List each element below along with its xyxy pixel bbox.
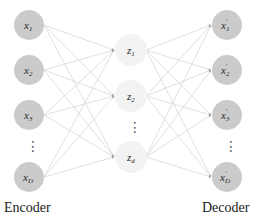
encoder-edges — [44, 25, 114, 177]
latent-ellipsis: ⋮ — [128, 119, 142, 135]
decoder-edges — [146, 25, 211, 177]
latent-node: zd — [115, 141, 147, 173]
decoder-ellipsis: ⋮ — [224, 138, 238, 154]
encoder-ellipsis: ⋮ — [26, 138, 40, 154]
decoder-caption: Decoder — [202, 200, 250, 215]
encoder-node: xD — [14, 162, 44, 192]
latent-node: z2 — [115, 80, 147, 112]
encoder-node: x2 — [14, 55, 44, 85]
encoder-layer: x1 x2 x3 ⋮ xD Encoder — [4, 10, 51, 215]
decoder-node: x2′ — [212, 55, 242, 85]
latent-layer: z1 z2 ⋮ zd — [115, 34, 147, 173]
latent-node: z1 — [115, 34, 147, 66]
encoder-caption: Encoder — [4, 200, 51, 215]
decoder-layer: x1′ x2′ x3′ ⋮ xD′ Decoder — [202, 10, 250, 215]
autoencoder-diagram: x1 x2 x3 ⋮ xD Encoder z1 z2 ⋮ zd — [0, 0, 261, 220]
decoder-node: x3′ — [212, 100, 242, 130]
encoder-node: x3 — [14, 100, 44, 130]
encoder-node: x1 — [14, 10, 44, 40]
decoder-node: xD′ — [212, 162, 242, 192]
decoder-node: x1′ — [212, 10, 242, 40]
